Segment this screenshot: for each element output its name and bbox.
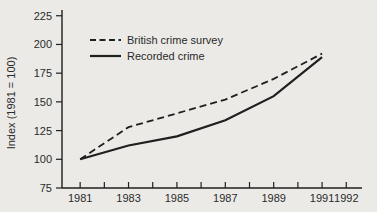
legend-label-recorded-crime: Recorded crime — [127, 50, 205, 62]
x-tick-label-1991: 1991 — [310, 192, 334, 204]
legend-label-british-crime-survey: British crime survey — [127, 34, 223, 46]
y-tick-label-100: 100 — [34, 153, 52, 165]
crime-index-chart: Index (1981 = 100) 751001251501752002251… — [0, 0, 377, 212]
x-tick-label-1987: 1987 — [213, 192, 237, 204]
x-tick-label-1983: 1983 — [116, 192, 140, 204]
x-tick-label-1989: 1989 — [261, 192, 285, 204]
series-line-british-crime-survey — [80, 54, 322, 160]
y-tick-label-150: 150 — [34, 96, 52, 108]
crime-index-figure: Index (1981 = 100) 751001251501752002251… — [0, 0, 377, 212]
y-tick-label-175: 175 — [34, 67, 52, 79]
y-tick-label-200: 200 — [34, 38, 52, 50]
y-axis-title: Index (1981 = 100) — [5, 57, 17, 150]
y-tick-label-75: 75 — [40, 182, 52, 194]
x-tick-label-1985: 1985 — [165, 192, 189, 204]
y-tick-label-225: 225 — [34, 10, 52, 22]
x-tick-label-1981: 1981 — [68, 192, 92, 204]
x-tick-label-1992: 1992 — [334, 192, 358, 204]
y-tick-label-125: 125 — [34, 125, 52, 137]
